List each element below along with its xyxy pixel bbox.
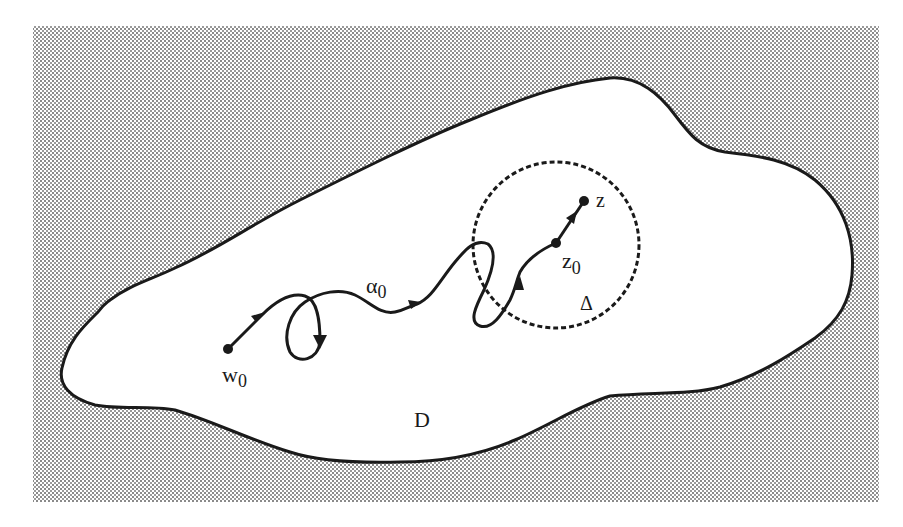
point-z [579, 196, 589, 206]
label-D: D [414, 407, 430, 432]
point-w0 [223, 344, 233, 354]
label-delta: Δ [580, 292, 593, 314]
point-z0 [551, 238, 561, 248]
diagram-figure: w0 α0 z0 z Δ D [0, 0, 903, 527]
label-z: z [596, 189, 605, 211]
